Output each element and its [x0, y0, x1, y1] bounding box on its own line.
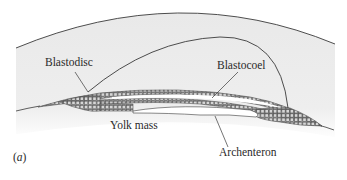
- label-blastocoel: Blastocoel: [217, 60, 266, 72]
- panel-letter: a: [17, 151, 23, 163]
- panel-label: (a): [13, 152, 26, 164]
- diagram-figure: Blastodisc Blastocoel Yolk mass Archente…: [0, 0, 347, 180]
- label-blastodisc: Blastodisc: [45, 57, 93, 69]
- blastodisc-diagram: [0, 0, 347, 180]
- label-archenteron: Archenteron: [219, 147, 276, 159]
- label-yolk-mass: Yolk mass: [110, 120, 158, 132]
